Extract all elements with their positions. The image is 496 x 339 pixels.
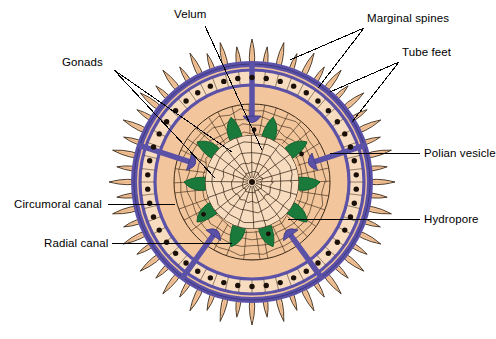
label-marginal-spines: Marginal spines (367, 12, 449, 25)
central-web-plates (205, 135, 299, 229)
label-gonads: Gonads (62, 56, 103, 69)
label-tube-feet: Tube feet (402, 46, 451, 59)
label-hydropore: Hydropore (424, 213, 479, 226)
label-polian-vesicle: Polian vesicle (424, 147, 496, 160)
label-velum: Velum (174, 8, 206, 21)
label-circumoral-canal: Circumoral canal (14, 198, 102, 211)
label-radial-canal: Radial canal (44, 237, 109, 250)
